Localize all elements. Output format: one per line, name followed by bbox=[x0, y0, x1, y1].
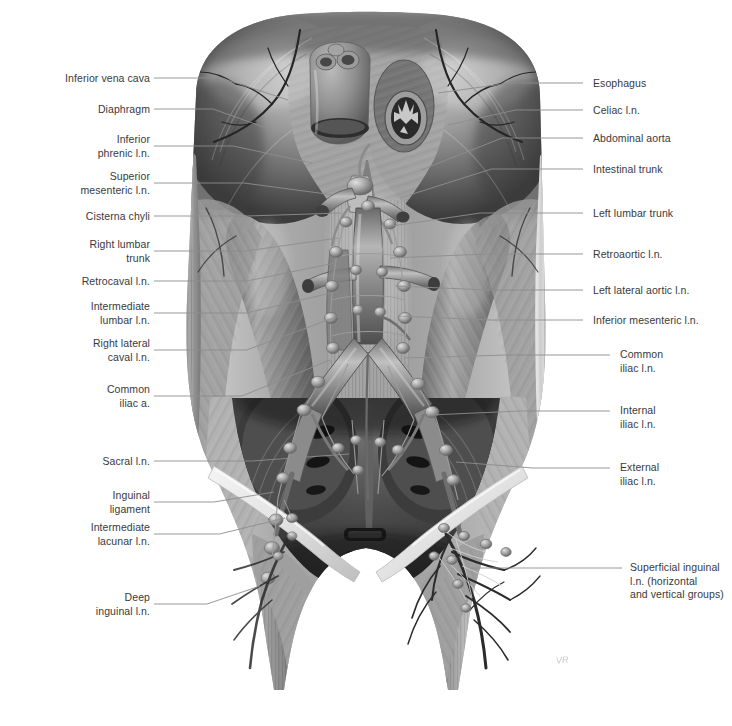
label-abdominal-aorta: Abdominal aorta bbox=[593, 132, 728, 146]
label-intermediate-lumbar-ln: Intermediate lumbar l.n. bbox=[25, 300, 150, 327]
label-superior-mesenteric-ln: Superior mesenteric l.n. bbox=[25, 170, 150, 197]
inferior-vena-cava-vessel bbox=[310, 42, 370, 144]
label-right-lumbar-trunk: Right lumbar trunk bbox=[35, 238, 150, 265]
label-cisterna-chyli: Cisterna chyli bbox=[35, 210, 150, 224]
label-intestinal-trunk: Intestinal trunk bbox=[593, 163, 728, 177]
label-left-lumbar-trunk: Left lumbar trunk bbox=[593, 207, 728, 221]
external-genitalia bbox=[336, 577, 400, 692]
label-celiac-ln: Celiac l.n. bbox=[593, 104, 728, 118]
label-esophagus: Esophagus bbox=[593, 77, 728, 91]
label-retrocaval-ln: Retrocaval l.n. bbox=[35, 275, 150, 289]
artist-signature: VR bbox=[556, 654, 569, 665]
label-deep-inguinal-ln: Deep inguinal l.n. bbox=[35, 591, 150, 618]
label-common-iliac-ln: Common iliac l.n. bbox=[620, 348, 730, 375]
anatomy-figure: Inferior vena cavaDiaphragmInferior phre… bbox=[0, 0, 732, 726]
label-inguinal-ligament: Inguinal ligament bbox=[35, 489, 150, 516]
label-inferior-vena-cava: Inferior vena cava bbox=[35, 72, 150, 86]
label-right-lateral-caval-ln: Right lateral caval l.n. bbox=[25, 337, 150, 364]
label-retroaortic-ln: Retroaortic l.n. bbox=[593, 248, 728, 262]
label-common-iliac-a: Common iliac a. bbox=[35, 383, 150, 410]
label-left-lateral-aortic-ln: Left lateral aortic l.n. bbox=[593, 284, 728, 298]
esophagus-vessel bbox=[374, 60, 434, 152]
label-sacral-ln: Sacral l.n. bbox=[35, 455, 150, 469]
label-diaphragm: Diaphragm bbox=[35, 103, 150, 117]
label-internal-iliac-ln: Internal iliac l.n. bbox=[620, 404, 730, 431]
label-superficial-inguinal-ln: Superficial inguinal l.n. (horizontal an… bbox=[630, 561, 730, 602]
label-intermediate-lacunar-ln: Intermediate lacunar l.n. bbox=[25, 521, 150, 548]
label-inferior-mesenteric-ln: Inferior mesenteric l.n. bbox=[593, 314, 728, 328]
label-inferior-phrenic-ln: Inferior phrenic l.n. bbox=[35, 133, 150, 160]
label-external-iliac-ln: External iliac l.n. bbox=[620, 461, 730, 488]
